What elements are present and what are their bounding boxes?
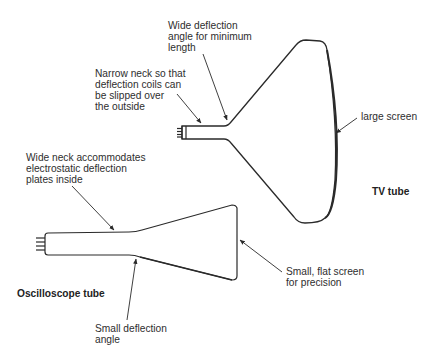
osc-angle-leader [127,259,136,320]
oscilloscope-lower-edge [140,257,232,280]
tv-pins-icon [177,129,182,138]
osc-neck-leader [72,186,114,230]
tv-deflection-angle-label: Wide deflection angle for minimum length [168,20,252,53]
tv-tube [182,40,337,223]
oscilloscope-tube [45,205,237,280]
tv-tube-outline [182,40,336,223]
tv-angle-leader [203,54,227,120]
osc-screen-leader [240,240,282,272]
oscilloscope-tube-outline [45,205,237,280]
oscilloscope-tube-title: Oscilloscope tube [17,288,105,299]
tv-neck-label: Narrow neck so that deflection coils can… [95,68,186,112]
oscilloscope-deflection-angle-label: Small deflection angle [95,323,167,345]
tv-screen-leader [336,118,357,133]
tv-tube-title: TV tube [372,186,409,197]
oscilloscope-neck-label: Wide neck accommodates electrostatic def… [26,152,145,185]
oscilloscope-pins-icon [36,238,45,250]
oscilloscope-screen-label: Small, flat screen for precision [286,266,364,288]
tv-screen-label: large screen [361,111,417,122]
